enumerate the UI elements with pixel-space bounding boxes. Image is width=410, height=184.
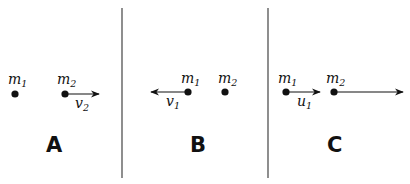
collision-diagram: m1 m2 v2 A m1 m2 v1 B m1 u1 m2 C — [0, 0, 410, 184]
panel-label-a: A — [46, 133, 63, 157]
panel-b: m1 m2 v1 B — [151, 70, 237, 157]
panel-label-c: C — [327, 133, 342, 157]
velocity-label-u1: u1 — [297, 93, 312, 111]
mass-dot-m2 — [221, 88, 228, 95]
mass-label-m1: m1 — [181, 70, 200, 88]
panel-c: m1 u1 m2 C — [278, 70, 403, 157]
mass-label-m2: m2 — [326, 70, 345, 88]
mass-label-m2: m2 — [218, 70, 237, 88]
mass-dot-m1 — [184, 88, 191, 95]
panel-a: m1 m2 v2 A — [8, 71, 99, 157]
panel-label-b: B — [190, 133, 206, 157]
mass-dot-m1 — [11, 90, 18, 97]
velocity-label-v2: v2 — [75, 95, 89, 113]
mass-label-m1: m1 — [8, 71, 27, 89]
mass-label-m2: m2 — [57, 71, 76, 89]
mass-label-m1: m1 — [278, 70, 297, 88]
velocity-label-v1: v1 — [166, 93, 180, 111]
